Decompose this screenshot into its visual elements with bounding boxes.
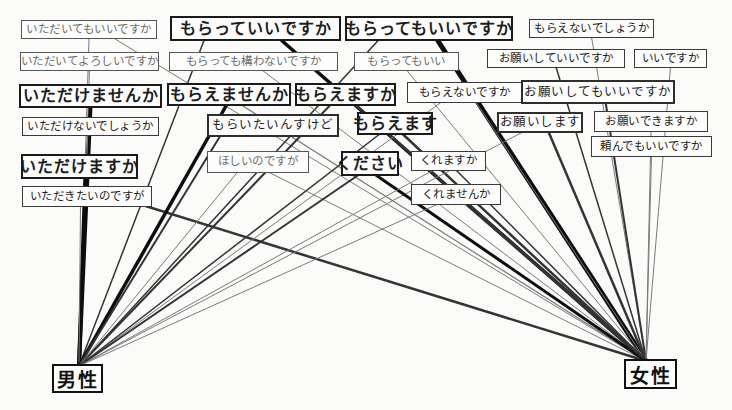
edge-moraenai_desuka-male bbox=[79, 102, 442, 366]
phrase-node-ii_desuka: いいですか bbox=[634, 49, 707, 68]
phrase-node-moratte_mo_ii: もらってもいい bbox=[354, 52, 459, 71]
phrase-node-moraemasuka: もらえますか bbox=[295, 83, 396, 106]
female-node: 女性 bbox=[624, 359, 677, 389]
phrase-node-kuremasuka: くれますか bbox=[411, 151, 486, 171]
phrase-node-kuremasenka: くれませんか bbox=[411, 184, 501, 205]
phrase-node-itadakemasuka: いただけますか bbox=[21, 154, 138, 179]
phrase-node-moraemasu: もらえます bbox=[357, 112, 433, 135]
edge-kuremasenka-female bbox=[465, 204, 646, 361]
phrase-node-onegai_shimasu: お願いします bbox=[497, 112, 583, 133]
phrase-node-moraemasenka: もらえませんか bbox=[167, 83, 291, 106]
phrase-node-itadakemasenka: いただけませんか bbox=[19, 84, 162, 108]
phrase-node-tanondemo_ii: 頼んでもいいですか bbox=[591, 136, 712, 157]
phrase-node-hoshii_no_desuga: ほしいのですが bbox=[207, 151, 309, 173]
phrase-node-itadaite_mo_ii: いただいてもいいですか bbox=[21, 20, 157, 39]
phrase-node-moraenai_desuka: もらえないですか bbox=[407, 82, 522, 103]
phrase-node-onegai_dekimasuka: お願いできますか bbox=[594, 111, 708, 132]
phrase-node-itadakenai_deshouka: いただけないでしょうか bbox=[22, 117, 159, 136]
edge-moraemasenka-female bbox=[241, 105, 646, 361]
phrase-node-moraitain_sukedo: もらいたいんすけど bbox=[207, 114, 339, 137]
phrase-node-onegai_shitemo_ii: お願いしてもいいですか bbox=[521, 80, 675, 104]
phrase-node-moratte_mo_ii_desuka: もらってもいいですか bbox=[345, 16, 513, 41]
phrase-node-itadakitai_no_desuga: いただきたいのですが bbox=[22, 186, 152, 207]
phrase-node-moraenai_deshouka: もらえないでしょうか bbox=[529, 19, 654, 38]
edge-itadakitai_no_desuga-female bbox=[146, 206, 647, 361]
phrase-node-onegai_shite_ii: お願いしていいですか bbox=[487, 49, 625, 68]
diagram-canvas: いただいてもいいですかもらっていいですかもらってもいいですかもらえないでしょうか… bbox=[0, 0, 732, 410]
phrase-node-moratte_ii: もらっていいですか bbox=[170, 16, 341, 41]
phrase-node-kamawanai: もらっても構わないですか bbox=[169, 52, 338, 71]
male-node: 男性 bbox=[52, 364, 103, 393]
phrase-node-kudasai: ください bbox=[341, 151, 399, 176]
phrase-node-itadaite_yoroshii: いただいてよろしいですか bbox=[20, 52, 159, 71]
